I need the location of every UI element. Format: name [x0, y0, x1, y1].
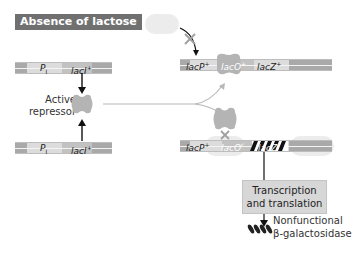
- lacz-label: lacZ+: [257, 58, 281, 73]
- laco-constitutive-label: lacOc: [221, 139, 244, 154]
- lacp-label: lacP+: [186, 58, 209, 73]
- blocked-x-icon: [221, 131, 229, 139]
- product-label: Nonfunctional β-galactosidase: [273, 214, 352, 240]
- nonfunctional-protein-icon: [247, 224, 274, 235]
- arrow-up-icon: [78, 119, 86, 141]
- laco-label: lacO+: [221, 58, 246, 73]
- unbound-repressor-icon: [214, 108, 237, 129]
- transcription-translation-box: Transcription and translation: [242, 180, 327, 214]
- lacp-label: lacP+: [186, 139, 209, 154]
- lacz-mutant-label: lacZ-: [258, 139, 279, 154]
- repressor-icon: [72, 95, 93, 113]
- arrow-down-icon: [78, 73, 86, 94]
- blocked-transcription-arrow: [180, 28, 199, 56]
